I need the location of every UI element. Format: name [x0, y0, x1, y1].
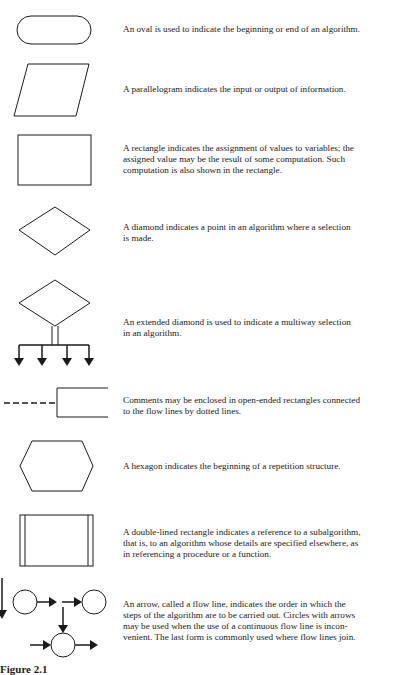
rectangle-symbol — [18, 135, 91, 185]
extended-diamond-symbol — [14, 280, 94, 366]
oval-symbol — [17, 16, 91, 44]
connector-circle — [51, 633, 75, 657]
diamond-symbol — [19, 207, 90, 255]
flow-line-symbols — [0, 578, 106, 657]
flow-line-description: An arrow, called a flow line, indicates … — [123, 599, 395, 643]
parallelogram-symbol — [14, 64, 89, 116]
connector-circle — [13, 590, 37, 614]
comment-description: Comments may be enclosed in open-ended r… — [123, 395, 395, 417]
figure-caption: Figure 2.1 — [0, 663, 47, 675]
oval-description: An oval is used to indicate the beginnin… — [123, 24, 395, 35]
multiway-arrow-icons — [19, 345, 89, 359]
diamond-description: A diamond indicates a point in an algori… — [123, 222, 395, 244]
double-lined-rectangle-description: A double-lined rectangle indicates a ref… — [123, 527, 395, 560]
rectangle-description: A rectangle indicates the assignment of … — [123, 143, 395, 176]
hexagon-description: A hexagon indicates the beginning of a r… — [123, 461, 395, 472]
parallelogram-description: A parallelogram indicates the input or o… — [123, 84, 395, 95]
double-lined-rectangle-symbol — [20, 515, 93, 566]
connector-circle — [82, 590, 106, 614]
extended-diamond-description: An extended diamond is used to indicate … — [123, 317, 395, 339]
comment-bracket-symbol — [4, 388, 108, 417]
hexagon-symbol — [20, 441, 93, 491]
